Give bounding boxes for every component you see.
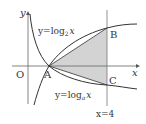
y-axis-label: y xyxy=(19,7,26,18)
loga-label: y=logax xyxy=(54,90,91,101)
y-axis-arrow-icon xyxy=(26,11,30,15)
x4-label: x=4 xyxy=(96,109,115,119)
log2-label: y=log2x xyxy=(37,26,75,37)
point-b-label: B xyxy=(110,29,117,40)
point-c-label: C xyxy=(109,75,117,86)
x-axis-label: x xyxy=(132,67,138,78)
origin-label: O xyxy=(16,69,24,80)
log-graph-diagram: y x O A B C y=log2x y=logax x=4 xyxy=(0,0,146,124)
shaded-triangle-abc xyxy=(49,28,107,85)
point-a-label: A xyxy=(43,69,52,80)
